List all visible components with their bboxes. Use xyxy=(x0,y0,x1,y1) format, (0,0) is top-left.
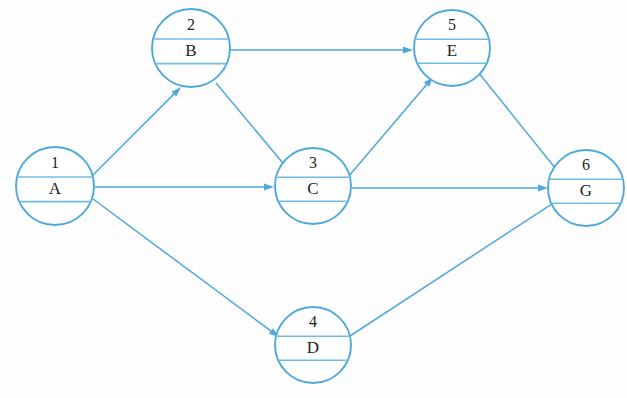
edge-line xyxy=(350,199,559,336)
node-label: A xyxy=(49,179,62,198)
edge-b-to-e xyxy=(230,47,413,54)
edge-line xyxy=(89,196,275,334)
edge-line xyxy=(216,83,293,176)
node-d[interactable]: 4D xyxy=(275,307,351,383)
arrowhead-icon xyxy=(538,185,548,192)
diagram-canvas: 1A2B3C4D5E6G xyxy=(0,0,627,398)
node-number: 4 xyxy=(309,313,317,330)
node-number: 3 xyxy=(309,154,317,171)
node-b[interactable]: 2B xyxy=(152,9,230,87)
edge-c-to-e xyxy=(348,77,433,177)
edge-a-to-d xyxy=(89,196,279,337)
node-c[interactable]: 3C xyxy=(275,148,351,224)
node-label: D xyxy=(307,338,319,357)
node-e[interactable]: 5E xyxy=(414,10,490,86)
node-number: 6 xyxy=(582,156,590,173)
node-label: G xyxy=(580,181,592,200)
activity-network-diagram: 1A2B3C4D5E6G xyxy=(0,0,627,398)
node-number: 2 xyxy=(187,16,195,33)
node-label: C xyxy=(307,179,318,198)
arrowhead-icon xyxy=(403,47,413,54)
edge-line xyxy=(478,72,565,180)
node-label: B xyxy=(185,41,196,60)
edge-a-to-c xyxy=(94,184,274,191)
node-number: 1 xyxy=(51,154,59,171)
node-g[interactable]: 6G xyxy=(548,150,624,226)
arrowhead-icon xyxy=(264,184,274,191)
edge-line xyxy=(348,81,429,177)
node-number: 5 xyxy=(448,16,456,33)
edge-line xyxy=(92,91,177,176)
node-label: E xyxy=(447,41,457,60)
node-a[interactable]: 1A xyxy=(16,147,94,225)
nodes-layer: 1A2B3C4D5E6G xyxy=(16,9,624,383)
edge-d-to-g xyxy=(350,196,564,336)
edge-a-to-b xyxy=(92,87,181,176)
edge-c-to-g xyxy=(352,185,548,192)
